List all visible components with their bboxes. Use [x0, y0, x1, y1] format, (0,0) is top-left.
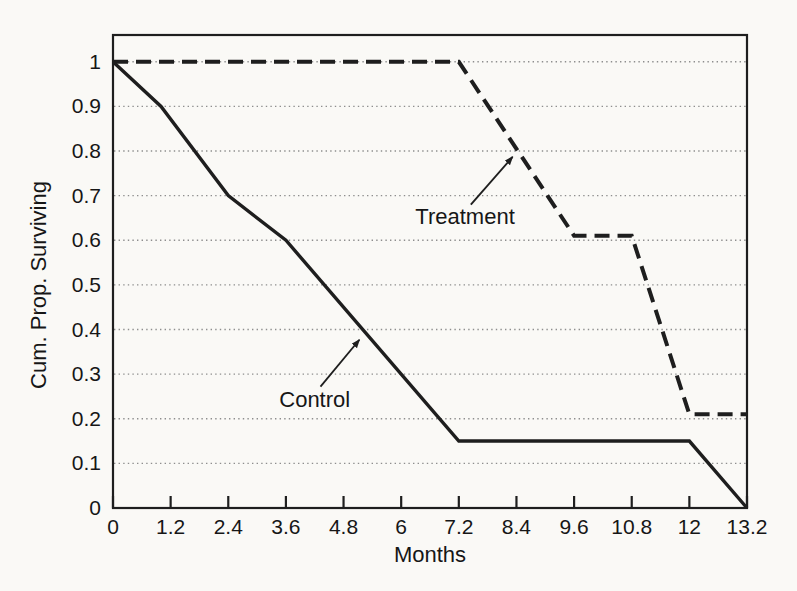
- y-tick-label: 0.9: [72, 94, 101, 117]
- treatment-annotation-label: Treatment: [415, 204, 514, 229]
- x-tick-label: 1.2: [156, 515, 185, 538]
- x-axis-title: Months: [394, 542, 466, 567]
- x-tick-label: 10.8: [611, 515, 652, 538]
- plot-border: [113, 35, 747, 508]
- survival-curve-chart: 01.22.43.64.867.28.49.610.81213.200.10.2…: [0, 0, 797, 591]
- treatment-line: [113, 62, 747, 415]
- y-tick-label: 0.2: [72, 407, 101, 430]
- x-tick-label: 4.8: [329, 515, 358, 538]
- y-tick-label: 0.5: [72, 273, 101, 296]
- x-tick-label: 9.6: [559, 515, 588, 538]
- y-tick-label: 0.3: [72, 362, 101, 385]
- x-tick-label: 3.6: [271, 515, 300, 538]
- x-tick-label: 13.2: [727, 515, 768, 538]
- x-tick-label: 8.4: [502, 515, 532, 538]
- control-annotation-label: Control: [279, 387, 350, 412]
- y-tick-label: 0.4: [72, 318, 102, 341]
- treatment-annotation-arrow: [471, 157, 513, 205]
- y-tick-label: 0.7: [72, 184, 101, 207]
- scanned-figure-page: 01.22.43.64.867.28.49.610.81213.200.10.2…: [0, 0, 797, 591]
- x-tick-label: 6: [395, 515, 407, 538]
- x-tick-label: 12: [678, 515, 701, 538]
- x-tick-label: 7.2: [444, 515, 473, 538]
- y-tick-label: 0.6: [72, 228, 101, 251]
- y-tick-label: 1: [89, 50, 101, 73]
- x-tick-label: 0: [107, 515, 119, 538]
- y-tick-label: 0: [89, 496, 101, 519]
- control-line: [113, 62, 747, 508]
- y-tick-label: 0.8: [72, 139, 101, 162]
- x-tick-label: 2.4: [214, 515, 244, 538]
- y-axis-title: Cum. Prop. Surviving: [26, 181, 51, 389]
- control-annotation-arrow: [320, 340, 359, 387]
- y-tick-label: 0.1: [72, 451, 101, 474]
